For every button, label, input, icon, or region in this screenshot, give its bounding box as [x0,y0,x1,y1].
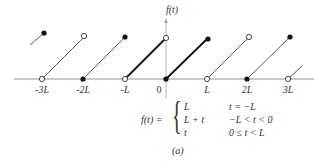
ramp-segment [207,37,249,79]
open-endpoint [285,76,290,81]
x-tick-label: 0 [157,84,162,95]
ramp-segment-bold [166,38,208,79]
formula-lhs: f(t) = [141,114,162,125]
ramp-segment [42,37,84,79]
case-value: t [184,126,187,139]
open-endpoint [163,35,168,40]
x-tick-label: 2L [242,84,253,95]
x-tick-label: -2L [76,84,90,95]
open-endpoint [204,76,209,81]
y-axis-arrow-icon [164,18,167,23]
open-endpoint [81,33,86,38]
ramp-segment-bold [125,38,166,79]
case-value: L [184,100,190,113]
x-tick-label: L [203,84,210,95]
open-endpoint [246,34,251,39]
x-tick-label: -L [121,84,130,95]
filled-endpoint [163,76,168,81]
filled-endpoint [244,76,249,81]
formula-cases: L t = −L L + t −L < t < 0 t 0 ≤ t < L [184,100,324,139]
filled-endpoint [287,34,292,39]
open-endpoint [39,76,44,81]
case-value: L + t [184,113,204,126]
formula-case: L + t −L < t < 0 [184,113,324,126]
ramp-segment [83,37,125,79]
y-axis-label: f(t) [166,4,179,16]
left-brace: { [172,96,182,136]
figure-caption: (a) [172,145,184,156]
filled-endpoint [122,34,127,39]
filled-endpoint [80,76,85,81]
open-endpoint [122,76,127,81]
filled-endpoint [205,36,210,41]
x-tick-label: -3L [35,84,49,95]
formula-case: L t = −L [184,100,324,113]
formula-case: t 0 ≤ t < L [184,126,324,139]
x-tick-label: 3L [282,84,294,95]
filled-endpoint [41,30,46,35]
case-condition: 0 ≤ t < L [229,126,265,139]
case-condition: t = −L [229,100,256,113]
ramp-segment [247,37,290,79]
ramp-segment [30,33,44,45]
case-condition: −L < t < 0 [229,113,272,126]
